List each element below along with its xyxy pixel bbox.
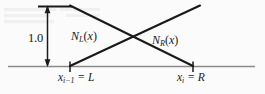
curve-label-nl: NL(x): [71, 29, 97, 44]
nl-argument: (x): [84, 29, 97, 43]
scan-artifact-ghost-text: [4, 8, 100, 23]
figure-container: 1.0 NL(x) NR(x) xi−1 = L xi = R: [0, 0, 265, 94]
nl-symbol: N: [71, 29, 79, 43]
left-node-subscript: i−1: [63, 76, 74, 85]
node-label-left: xi−1 = L: [58, 71, 94, 85]
nr-argument: (x): [165, 33, 178, 47]
left-node-value: = L: [77, 71, 94, 83]
nl-variable: x: [88, 29, 93, 43]
height-label: 1.0: [28, 31, 43, 46]
right-node-value: = R: [187, 71, 205, 83]
node-label-right: xi = R: [177, 71, 205, 85]
nr-symbol: N: [152, 33, 160, 47]
nr-variable: x: [169, 33, 174, 47]
curve-label-nr: NR(x): [152, 33, 178, 48]
diagram-canvas: [0, 0, 265, 94]
